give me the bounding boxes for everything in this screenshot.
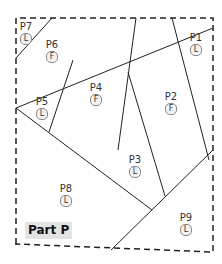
badge-icon: L — [180, 224, 192, 236]
badge-icon: L — [190, 44, 202, 56]
badge-icon: F — [46, 51, 58, 63]
badge-icon: L — [60, 195, 72, 207]
piece-p3: P3 L — [125, 154, 145, 178]
badge-icon: F — [90, 94, 102, 106]
badge-icon: L — [20, 33, 32, 45]
seam-p5-p4 — [49, 60, 73, 132]
piece-name: P9 — [176, 212, 196, 223]
piece-name: P6 — [42, 39, 62, 50]
piece-p7: P7 L — [16, 21, 36, 45]
badge-icon: L — [129, 166, 141, 178]
piece-name: P2 — [161, 91, 181, 102]
piece-p6: P6 F — [42, 39, 62, 63]
badge-icon: F — [165, 103, 177, 115]
piece-name: P8 — [56, 183, 76, 194]
piece-p5: P5 L — [32, 96, 52, 120]
piece-name: P3 — [125, 154, 145, 165]
part-label: Part P — [25, 222, 72, 239]
piece-p1: P1 L — [186, 32, 206, 56]
piece-p4: P4 F — [86, 82, 106, 106]
piece-name: P4 — [86, 82, 106, 93]
piece-p8: P8 L — [56, 183, 76, 207]
piece-p9: P9 L — [176, 212, 196, 236]
seam-p4-p3 — [118, 18, 136, 150]
piece-name: P7 — [16, 21, 36, 32]
badge-icon: L — [36, 108, 48, 120]
piece-name: P5 — [32, 96, 52, 107]
piece-p2: P2 F — [161, 91, 181, 115]
piece-name: P1 — [186, 32, 206, 43]
